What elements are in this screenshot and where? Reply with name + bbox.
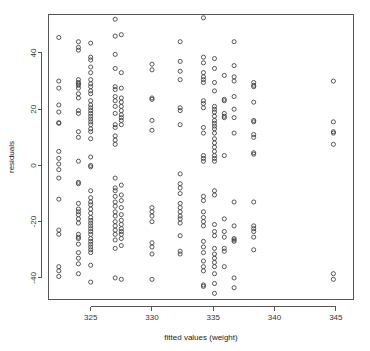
x-tick-label: 345: [329, 313, 343, 322]
residual-plot: 325330335340345 -40-2002040 fitted value…: [0, 0, 370, 351]
x-tick-label: 335: [207, 313, 221, 322]
plot-canvas: 325330335340345 -40-2002040 fitted value…: [0, 0, 370, 351]
x-axis-title: fitted values (weight): [164, 333, 238, 342]
y-axis-title: residuals: [7, 141, 16, 173]
y-tick-label: -20: [29, 215, 38, 227]
x-tick-label: 325: [84, 313, 98, 322]
y-tick-label: 20: [29, 104, 38, 113]
y-tick-label: 0: [29, 163, 38, 168]
x-tick-label: 340: [268, 313, 282, 322]
y-tick-label: -40: [29, 272, 38, 284]
y-tick-label: 40: [29, 48, 38, 57]
plot-background: [0, 0, 370, 351]
x-tick-label: 330: [145, 313, 159, 322]
